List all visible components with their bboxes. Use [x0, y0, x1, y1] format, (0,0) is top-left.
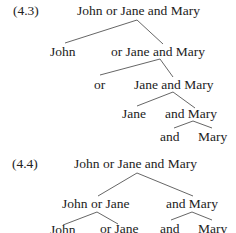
tree-node: John: [50, 223, 76, 233]
tree-node: Mary: [198, 130, 227, 144]
tree-node: and Mary: [165, 107, 217, 121]
tree-node: or Jane: [100, 222, 139, 233]
tree-node: John or Jane: [62, 197, 130, 211]
tree-node: Jane: [122, 107, 146, 121]
branch-line: [98, 173, 137, 196]
branch-line: [160, 59, 173, 77]
branch-line: [65, 20, 137, 43]
branch-line: [193, 121, 212, 128]
example-number: (4.3): [13, 4, 39, 18]
branch-line: [171, 212, 192, 220]
tree-node: or: [94, 78, 105, 92]
example-number: (4.4): [12, 157, 38, 171]
tree-node: and Mary: [166, 197, 218, 211]
branch-line: [100, 59, 160, 75]
branch-line: [174, 121, 193, 128]
tree-node: Jane and Mary: [134, 78, 213, 92]
branch-line: [137, 173, 193, 196]
tree-node-root: John or Jane and Mary: [77, 4, 200, 18]
tree-node: and: [160, 222, 180, 233]
branch-line: [192, 212, 212, 220]
tree-node: or Jane and Mary: [111, 45, 205, 59]
tree-node: and: [160, 130, 180, 144]
tree-node-root: John or Jane and Mary: [74, 157, 197, 171]
tree-node: John: [50, 45, 76, 59]
tree-node: Mary: [198, 222, 227, 233]
syntax-tree-figure: (4.3) John or Jane and Mary John or Jane…: [0, 0, 236, 233]
branch-line: [137, 20, 163, 44]
branch-line: [137, 92, 173, 106]
